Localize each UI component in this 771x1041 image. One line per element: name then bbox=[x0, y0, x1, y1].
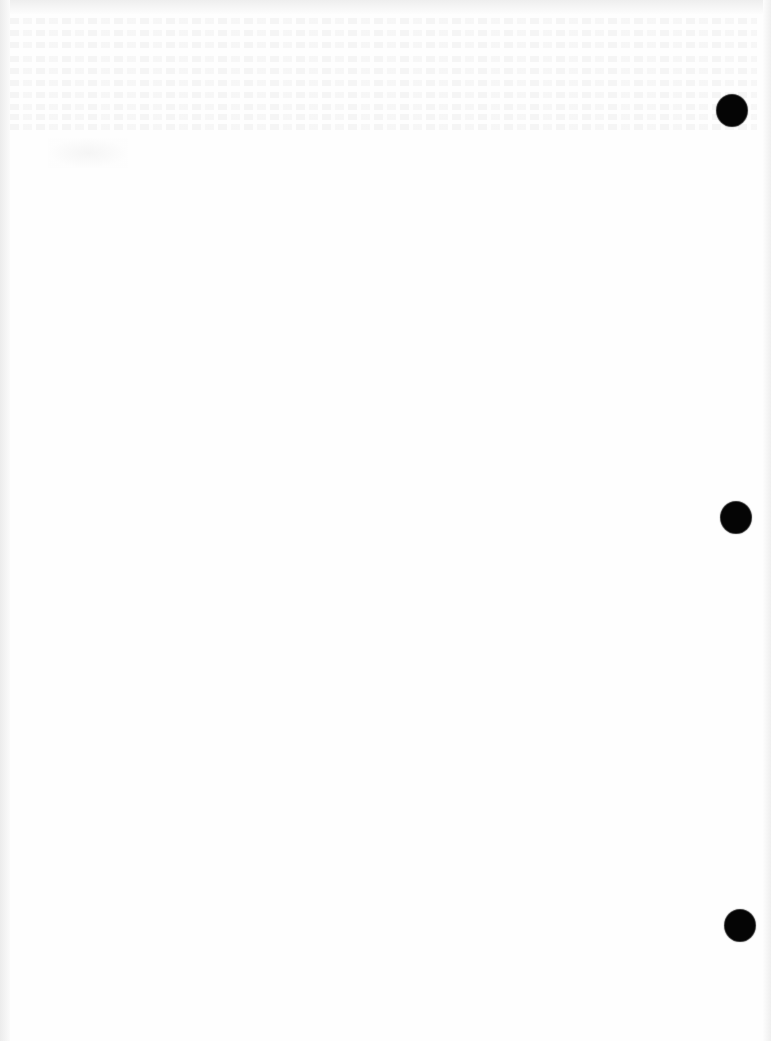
page-right-shadow bbox=[763, 0, 771, 1041]
bleed-through-line bbox=[10, 80, 757, 86]
bleed-through-line bbox=[10, 68, 757, 74]
bleed-through-line bbox=[10, 18, 757, 24]
bleed-through-line bbox=[10, 42, 757, 48]
page-top-shadow bbox=[0, 0, 771, 14]
bleed-through-heading bbox=[48, 138, 128, 168]
bleed-through-line bbox=[10, 104, 757, 110]
bleed-through-line bbox=[10, 30, 757, 36]
bleed-through-line bbox=[10, 124, 757, 130]
punch-hole-middle bbox=[721, 502, 751, 533]
bleed-through-line bbox=[10, 56, 757, 62]
punch-hole-top bbox=[717, 95, 747, 126]
scanned-page bbox=[0, 0, 771, 1041]
punch-hole-bottom bbox=[725, 910, 755, 941]
page-left-shadow bbox=[0, 0, 10, 1041]
bleed-through-line bbox=[10, 92, 757, 98]
bleed-through-line bbox=[10, 114, 757, 120]
